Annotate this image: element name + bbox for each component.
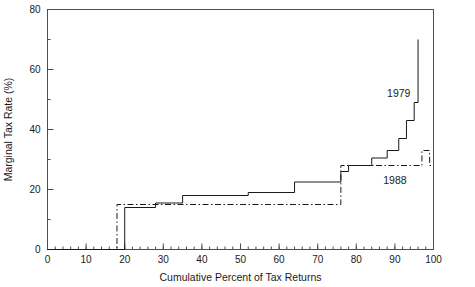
x-axis-title: Cumulative Percent of Tax Returns bbox=[159, 271, 321, 283]
y-tick-label: 80 bbox=[29, 4, 41, 15]
y-tick-label: 60 bbox=[29, 64, 41, 75]
y-tick-label: 40 bbox=[29, 124, 41, 135]
x-tick-label: 100 bbox=[425, 254, 442, 265]
x-tick-label: 60 bbox=[274, 254, 286, 265]
marginal-tax-rate-chart: 0102030405060708090100020406080Cumulativ… bbox=[0, 0, 475, 287]
x-tick-label: 0 bbox=[45, 254, 51, 265]
series-line-1988 bbox=[48, 151, 434, 250]
x-tick-label: 50 bbox=[235, 254, 247, 265]
plot-frame bbox=[48, 10, 434, 250]
x-tick-label: 80 bbox=[351, 254, 363, 265]
series-label-1979: 1979 bbox=[387, 87, 411, 99]
x-tick-label: 20 bbox=[119, 254, 131, 265]
series-label-1988: 1988 bbox=[383, 174, 407, 186]
series-line-1979 bbox=[48, 40, 419, 250]
x-tick-label: 10 bbox=[81, 254, 93, 265]
y-tick-label: 20 bbox=[29, 184, 41, 195]
x-tick-label: 90 bbox=[389, 254, 401, 265]
x-tick-label: 40 bbox=[196, 254, 208, 265]
y-tick-label: 0 bbox=[35, 244, 41, 255]
chart-container: 0102030405060708090100020406080Cumulativ… bbox=[0, 0, 475, 287]
x-tick-label: 70 bbox=[312, 254, 324, 265]
x-tick-label: 30 bbox=[158, 254, 170, 265]
y-axis-title: Marginal Tax Rate (%) bbox=[2, 78, 14, 182]
